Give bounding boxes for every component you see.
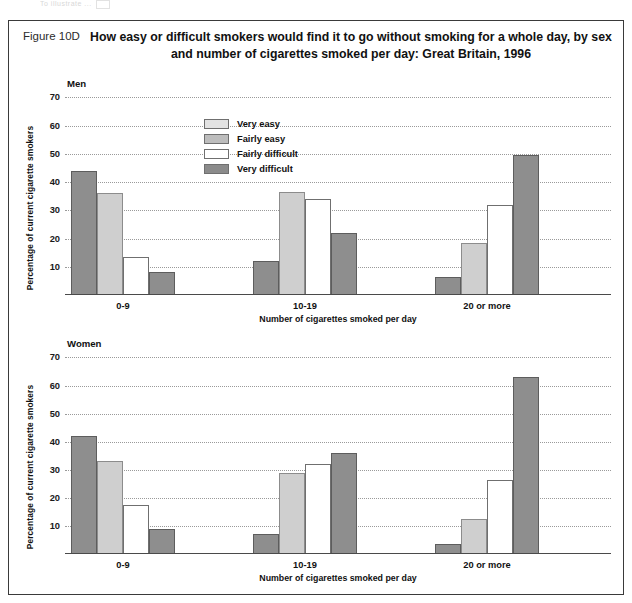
legend-item: Fairly difficult [204,147,298,161]
bar-10-19-very-easy [253,534,279,554]
bar-10-19-fairly-difficult [305,199,331,295]
x-tick-label: 20 or more [463,301,511,311]
y-tick-label-10: 10 [50,521,60,531]
y-tick-label-50: 50 [50,149,60,159]
legend-label-fairly-difficult: Fairly difficult [237,149,298,159]
legend-swatch-fairly-easy [204,134,229,145]
bar-0-9-very-easy [71,171,97,295]
bar-10-19-very-easy [253,261,279,295]
plot-area-women: 10203040506070 0-910-1920 or more Number… [65,349,611,554]
bar-20-or-more-fairly-easy [461,243,487,295]
page-title: How easy or difficult smokers would find… [87,29,615,63]
bar-10-19-fairly-easy [279,473,305,554]
legend-label-fairly-easy: Fairly easy [237,134,285,144]
legend-label-very-difficult: Very difficult [237,164,293,174]
scan-remnant-text: To illustrate ... [40,0,92,7]
bar-20-or-more-very-easy [435,277,461,295]
y-tick-label-60: 60 [50,121,60,131]
legend-swatch-very-easy [204,119,229,130]
scan-edge-remnant: To illustrate ... [40,0,220,10]
bar-group: 20 or more [429,89,611,295]
x-tick-label: 10-19 [293,301,317,311]
bar-20-or-more-fairly-difficult [487,205,513,295]
bar-group: 10-19 [247,349,429,554]
x-tick-label: 20 or more [463,560,511,570]
x-axis-label-women: Number of cigarettes smoked per day [65,573,611,583]
bar-0-9-fairly-easy [97,193,123,295]
x-tick-label: 0-9 [116,301,129,311]
bar-0-9-fairly-easy [97,461,123,554]
legend-label-very-easy: Very easy [237,119,280,129]
bar-groups-women: 0-910-1920 or more [65,349,611,554]
y-tick-label-50: 50 [50,409,60,419]
chart-panel-women: Women Percentage of current cigarette sm… [9,339,625,594]
y-tick-label-10: 10 [50,262,60,272]
legend-swatch-very-difficult [204,164,229,175]
y-axis-label-men: Percentage of current cigarette smokers [25,103,35,313]
y-tick-label-20: 20 [50,234,60,244]
y-tick-label-40: 40 [50,437,60,447]
y-tick-label-30: 30 [50,465,60,475]
figure-number: Figure 10D [23,29,87,42]
scan-remnant-box [96,0,110,9]
bar-10-19-very-difficult [331,453,357,554]
bar-cluster [435,349,539,554]
bar-0-9-very-easy [71,436,97,554]
bar-0-9-very-difficult [149,272,175,295]
bar-cluster [71,89,175,295]
bar-groups-men: 0-910-1920 or more [65,89,611,295]
y-tick-label-60: 60 [50,381,60,391]
x-axis-line-women [65,553,611,554]
x-tick-label: 10-19 [293,560,317,570]
legend-item: Fairly easy [204,132,298,146]
bar-0-9-fairly-difficult [123,257,149,295]
bar-0-9-very-difficult [149,529,175,554]
legend-item: Very easy [204,117,298,131]
y-tick-label-40: 40 [50,177,60,187]
plot-area-men: Very easy Fairly easy Fairly difficult V… [65,89,611,295]
bar-20-or-more-very-difficult [513,155,539,295]
x-tick-label: 0-9 [116,560,129,570]
y-tick-label-20: 20 [50,493,60,503]
bar-10-19-very-difficult [331,233,357,295]
bar-group: 0-9 [65,349,247,554]
bar-0-9-fairly-difficult [123,505,149,554]
bar-cluster [71,349,175,554]
x-axis-label-men: Number of cigarettes smoked per day [65,314,611,324]
bar-cluster [435,89,539,295]
bar-cluster [253,349,357,554]
bar-20-or-more-very-difficult [513,377,539,554]
figure-frame: Figure 10D How easy or difficult smokers… [8,20,624,595]
y-tick-label-30: 30 [50,205,60,215]
x-axis-line-men [65,294,611,295]
bar-20-or-more-fairly-easy [461,519,487,554]
chart-panel-men: Men Percentage of current cigarette smok… [9,79,625,337]
legend-swatch-fairly-difficult [204,149,229,160]
legend: Very easy Fairly easy Fairly difficult V… [204,117,298,177]
bar-group: 20 or more [429,349,611,554]
bar-10-19-fairly-difficult [305,464,331,554]
y-tick-label-70: 70 [50,352,60,362]
legend-item: Very difficult [204,162,298,176]
panel-label-men: Men [67,78,89,89]
figure-title-row: Figure 10D How easy or difficult smokers… [23,29,615,63]
y-axis-label-women: Percentage of current cigarette smokers [25,362,35,572]
bar-10-19-fairly-easy [279,192,305,295]
bar-20-or-more-fairly-difficult [487,480,513,554]
y-tick-label-70: 70 [50,92,60,102]
panel-label-women: Women [67,338,104,349]
